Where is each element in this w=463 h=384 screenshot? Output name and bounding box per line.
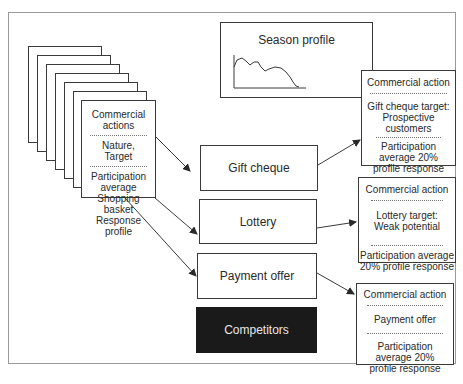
- source-card-commercial-actions: Commercial actions Nature, Target Partic…: [81, 100, 156, 198]
- divider: [371, 245, 443, 246]
- result-card-footer: profile response: [362, 163, 455, 174]
- divider: [376, 137, 441, 138]
- action-box-competitors: Competitors: [196, 307, 317, 353]
- action-label: Payment offer: [220, 269, 294, 283]
- action-box-gift-cheque: Gift cheque: [200, 145, 318, 191]
- season-profile-box: Season profile: [220, 22, 373, 98]
- result-card-target: Payment offer: [357, 314, 453, 325]
- result-card-footer: Participation average: [359, 250, 455, 261]
- action-box-lottery: Lottery: [199, 199, 317, 244]
- divider: [90, 135, 147, 136]
- action-box-payment-offer: Payment offer: [197, 253, 317, 299]
- result-card-footer: average 20%: [362, 152, 455, 163]
- result-card-target: Prospective: [362, 112, 455, 123]
- source-card-line: average: [82, 182, 155, 193]
- result-card-target: Weak potential: [359, 221, 455, 232]
- source-card-line: Shopping basket: [82, 193, 155, 215]
- divider: [367, 305, 443, 306]
- result-card-footer: average 20%: [357, 352, 453, 363]
- result-card-header: Commercial action: [359, 184, 455, 195]
- result-card-target: Lottery target:: [359, 210, 455, 221]
- divider: [371, 200, 443, 201]
- source-card-nature-target: Nature, Target: [82, 140, 155, 162]
- result-card-footer: 20% profile response: [359, 261, 455, 272]
- divider: [370, 93, 447, 94]
- divider: [367, 333, 443, 334]
- result-card-header: Commercial action: [357, 289, 453, 300]
- action-label: Competitors: [224, 323, 289, 337]
- result-card-footer: Participation: [362, 141, 455, 152]
- divider: [90, 166, 147, 167]
- result-card-footer: profile response: [357, 363, 453, 374]
- result-card-payment-offer: Commercial action Payment offer Particip…: [356, 283, 454, 365]
- source-card-line: Response profile: [82, 215, 155, 237]
- result-card-target: customers: [362, 123, 455, 134]
- result-card-header: Commercial action: [362, 77, 455, 88]
- source-card-title: Commercial actions: [82, 109, 155, 131]
- source-card-line: Participation: [82, 171, 155, 182]
- action-label: Lottery: [240, 215, 277, 229]
- result-card-target: Gift cheque target:: [362, 101, 455, 112]
- result-card-lottery: Commercial action Lottery target: Weak p…: [358, 177, 456, 263]
- action-label: Gift cheque: [228, 161, 289, 175]
- result-card-footer: Participation: [357, 341, 453, 352]
- result-card-gift-cheque: Commercial action Gift cheque target: Pr…: [361, 70, 456, 166]
- season-profile-chart: [221, 23, 374, 99]
